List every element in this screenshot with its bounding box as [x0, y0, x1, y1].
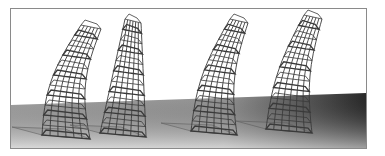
scene-canvas	[11, 9, 366, 148]
render-frame	[10, 8, 367, 149]
